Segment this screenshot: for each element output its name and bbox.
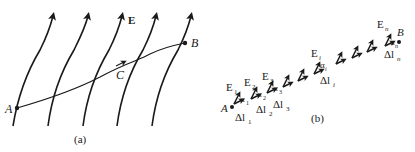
svg-text:1: 1 [248, 118, 252, 126]
svg-text:E: E [226, 81, 233, 93]
svg-text:α: α [257, 89, 262, 99]
segment-label-i: Δl i [320, 74, 335, 89]
field-line [13, 16, 53, 126]
svg-text:α: α [240, 94, 245, 104]
field-label-1: E 1 [226, 81, 238, 96]
label-field-e: E [128, 14, 135, 26]
point-a-dot [230, 105, 234, 109]
field-label-n: E n [377, 18, 389, 33]
svg-text:α: α [273, 83, 278, 93]
label-point-a: A [4, 102, 13, 116]
caption-b: (b) [311, 112, 324, 125]
panel-a: A C B E (a) [4, 14, 199, 146]
svg-text:3: 3 [279, 89, 282, 95]
label-point-b: B [191, 36, 199, 50]
label-point-b: B [397, 26, 404, 38]
path-a-to-b [17, 43, 185, 108]
svg-text:2: 2 [252, 83, 256, 91]
svg-text:1: 1 [246, 100, 249, 106]
svg-text:Δl: Δl [320, 74, 330, 86]
svg-text:3: 3 [286, 105, 290, 113]
angle-label-2: α 2 [257, 89, 266, 101]
svg-text:1: 1 [234, 88, 238, 96]
segment-label-2: Δl 2 [256, 103, 273, 118]
field-label-2: E 2 [244, 76, 256, 91]
svg-text:n: n [397, 55, 401, 63]
svg-text:E: E [244, 76, 251, 88]
svg-text:E: E [377, 18, 384, 30]
svg-text:2: 2 [269, 110, 273, 118]
svg-text:Δl: Δl [235, 111, 245, 123]
label-point-c: C [116, 68, 125, 82]
segment-label-3: Δl 3 [273, 98, 290, 113]
svg-text:i: i [333, 81, 335, 89]
segment-label-1: Δl 1 [235, 111, 252, 126]
svg-text:2: 2 [263, 95, 266, 101]
point-b-dot [183, 41, 187, 45]
field-line [152, 16, 191, 126]
svg-text:E: E [311, 47, 318, 59]
caption-a: (a) [74, 133, 87, 146]
svg-text:E: E [262, 70, 269, 82]
segment-label-n: Δl n [384, 48, 401, 63]
svg-text:n: n [395, 43, 398, 49]
angle-label-3: α 3 [273, 83, 282, 95]
field-line [48, 16, 88, 126]
svg-text:Δl: Δl [273, 98, 283, 110]
svg-text:i: i [325, 66, 327, 72]
svg-text:Δl: Δl [384, 48, 394, 60]
panel-b: A B E 1 E 2 E 3 E i E n α 1 α 2 [220, 18, 404, 126]
field-lines [13, 16, 191, 126]
point-a-dot [15, 106, 19, 110]
svg-text:Δl: Δl [256, 103, 266, 115]
electric-field-diagram: A C B E (a) [0, 0, 415, 152]
angle-label-1: α 1 [240, 94, 249, 106]
label-point-a: A [220, 102, 228, 114]
svg-text:n: n [385, 25, 389, 33]
